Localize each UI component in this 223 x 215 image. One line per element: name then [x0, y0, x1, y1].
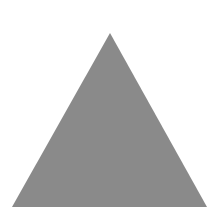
triangle-shape: [12, 33, 207, 207]
canvas: [0, 0, 223, 215]
triangle-graphic: [0, 0, 223, 215]
